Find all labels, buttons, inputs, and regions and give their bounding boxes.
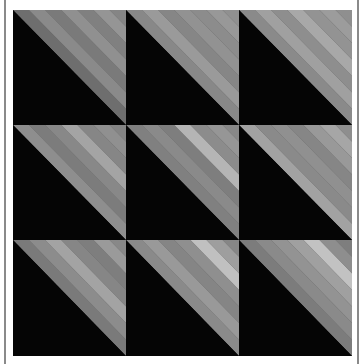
quilt-grid [13, 10, 352, 356]
quilt-block-r3c1 [13, 240, 126, 356]
quilt-block-r2c1 [13, 125, 126, 240]
quilt-block-r2c3 [239, 125, 352, 240]
quilt-block-r3c2 [126, 240, 239, 356]
left-frame-line [4, 0, 6, 364]
quilt-block-r1c1 [13, 10, 126, 125]
quilt-block-r1c2 [126, 10, 239, 125]
quilt-block-r2c2 [126, 125, 239, 240]
quilt-block-r1c3 [239, 10, 352, 125]
quilt-block-r3c3 [239, 240, 352, 356]
right-frame-line [357, 0, 359, 364]
